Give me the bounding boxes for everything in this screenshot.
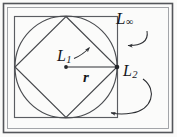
l-two-label-base: L	[123, 62, 132, 79]
l-one-label-subscript: 1	[66, 54, 72, 65]
l-infinity-label: L∞	[116, 10, 133, 28]
l-two-label-subscript: 2	[132, 69, 138, 80]
l-infinity-label-subscript: ∞	[125, 16, 133, 27]
l-two-label: L2	[123, 63, 138, 81]
radius-label: r	[83, 70, 89, 85]
l-one-label: L1	[57, 48, 72, 66]
l-one-label-base: L	[57, 47, 66, 64]
figure-container: L∞ L1 L2 r	[0, 0, 177, 137]
right-vertex-dot	[115, 65, 120, 70]
